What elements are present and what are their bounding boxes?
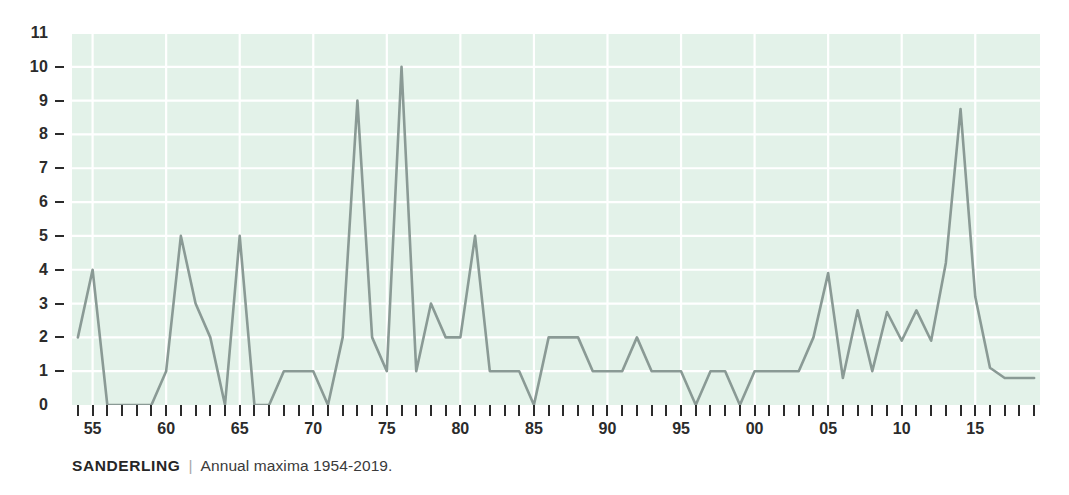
x-axis-tick-label-15: 15 (955, 421, 995, 437)
x-axis-tick-mark (136, 405, 138, 416)
x-axis-tick-mark (548, 405, 550, 416)
x-axis-tick-mark (459, 405, 461, 416)
x-axis-tick-mark (430, 405, 432, 416)
y-axis-tick-label: 5 (39, 228, 48, 244)
x-axis-tick-mark (1033, 405, 1035, 416)
y-axis-tick-mark (55, 336, 64, 338)
x-axis-tick-mark (842, 405, 844, 416)
x-axis-tick-mark (724, 405, 726, 416)
y-axis-tick-label: 2 (39, 329, 48, 345)
x-axis-tick-mark (150, 405, 152, 416)
x-axis-tick-mark (709, 405, 711, 416)
x-axis-tick-mark (974, 405, 976, 416)
y-axis-tick-mark (55, 370, 64, 372)
x-axis-tick-mark (489, 405, 491, 416)
x-axis-tick-mark (283, 405, 285, 416)
y-axis-tick-label: 1 (39, 363, 48, 379)
x-axis-tick-mark (945, 405, 947, 416)
y-axis-tick-mark (55, 201, 64, 203)
x-axis-tick-mark (606, 405, 608, 416)
y-axis-tick-mark (55, 404, 64, 406)
x-axis-tick-mark (739, 405, 741, 416)
x-axis-tick-label-60: 60 (146, 421, 186, 437)
x-axis-tick-mark (930, 405, 932, 416)
y-axis-tick-mark (55, 235, 64, 237)
caption-separator: | (188, 457, 192, 475)
x-axis-tick-mark (77, 405, 79, 416)
x-axis-tick-mark (239, 405, 241, 416)
x-axis-tick-mark (680, 405, 682, 416)
x-axis-tick-mark (504, 405, 506, 416)
x-axis-tick-mark (253, 405, 255, 416)
x-axis-tick-mark (695, 405, 697, 416)
x-axis-tick-mark (562, 405, 564, 416)
y-axis-tick-2: 2 (0, 329, 72, 345)
x-axis-tick-mark (768, 405, 770, 416)
sanderling-annual-maxima-chart: 11109876543210 5560657075808590950005101… (0, 0, 1069, 495)
y-axis-tick-mark (55, 133, 64, 135)
y-axis-tick-3: 3 (0, 296, 72, 312)
x-axis-tick-label-55: 55 (73, 421, 113, 437)
x-axis-tick-mark (268, 405, 270, 416)
y-axis-tick-mark (55, 303, 64, 305)
x-axis-tick-label-85: 85 (514, 421, 554, 437)
x-axis-tick-mark (812, 405, 814, 416)
y-axis-tick-label: 7 (39, 160, 48, 176)
plot-area (72, 33, 1040, 405)
x-axis-tick-mark (401, 405, 403, 416)
x-axis-tick-label-70: 70 (293, 421, 333, 437)
x-axis-tick-label-65: 65 (220, 421, 260, 437)
y-axis-tick-label: 11 (31, 25, 48, 41)
x-axis-tick-mark (577, 405, 579, 416)
y-axis-tick-0: 0 (0, 397, 72, 413)
x-axis-tick-mark (871, 405, 873, 416)
y-axis-tick-label: 9 (39, 93, 48, 109)
x-axis-tick-label-00: 00 (735, 421, 775, 437)
x-axis-tick-mark (165, 405, 167, 416)
y-axis-tick-label: 0 (39, 397, 48, 413)
x-axis-tick-mark (533, 405, 535, 416)
x-axis-tick-mark (195, 405, 197, 416)
x-axis-tick-mark (915, 405, 917, 416)
y-axis-tick-mark (55, 269, 64, 271)
y-axis-tick-label: 10 (30, 59, 48, 75)
x-axis-tick-label-75: 75 (367, 421, 407, 437)
caption-description: Annual maxima 1954-2019. (201, 457, 393, 475)
y-axis-tick-9: 9 (0, 93, 72, 109)
x-axis-tick-mark (518, 405, 520, 416)
x-axis-tick-mark (106, 405, 108, 416)
x-axis-tick-mark (989, 405, 991, 416)
x-axis-tick-mark (1018, 405, 1020, 416)
x-axis-tick-mark (209, 405, 211, 416)
x-axis-tick-mark (651, 405, 653, 416)
y-axis-tick-7: 7 (0, 160, 72, 176)
x-axis-tick-mark (886, 405, 888, 416)
y-axis-tick-10: 10 (0, 59, 72, 75)
x-axis-tick-label-80: 80 (440, 421, 480, 437)
x-axis-tick-mark (827, 405, 829, 416)
x-axis-tick-mark (783, 405, 785, 416)
x-axis-tick-mark (224, 405, 226, 416)
y-axis-tick-5: 5 (0, 228, 72, 244)
x-axis-tick-mark (415, 405, 417, 416)
x-axis-tick-mark (474, 405, 476, 416)
y-axis-tick-6: 6 (0, 194, 72, 210)
y-axis-tick-mark (55, 66, 64, 68)
x-axis-tick-mark (121, 405, 123, 416)
x-axis-tick-mark (665, 405, 667, 416)
x-axis-tick-mark (636, 405, 638, 416)
x-axis-tick-label-05: 05 (808, 421, 848, 437)
y-axis-tick-11: 11 (0, 25, 72, 41)
x-axis-tick-label-95: 95 (661, 421, 701, 437)
x-axis-tick-mark (298, 405, 300, 416)
x-axis-tick-mark (342, 405, 344, 416)
x-axis-tick-mark (754, 405, 756, 416)
x-axis-tick-label-90: 90 (587, 421, 627, 437)
x-axis-tick-mark (960, 405, 962, 416)
x-axis-tick-mark (1004, 405, 1006, 416)
caption: SANDERLING | Annual maxima 1954-2019. (72, 457, 392, 475)
y-axis: 11109876543210 (0, 0, 72, 440)
x-axis-tick-label-10: 10 (882, 421, 922, 437)
y-axis-tick-8: 8 (0, 126, 72, 142)
x-axis-tick-mark (857, 405, 859, 416)
